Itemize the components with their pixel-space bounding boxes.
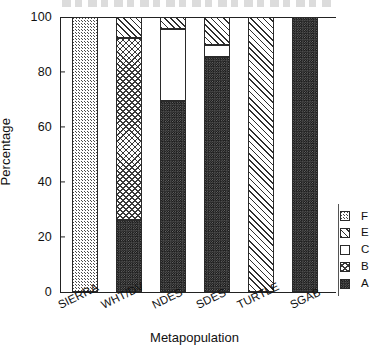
clipped-caption-artifact [62,0,332,7]
segment-ndes-E [160,17,186,29]
y-tick-label-80: 80 [38,65,60,79]
legend-label-A: A [361,278,369,290]
legend-swatch-E-icon [340,228,350,238]
bar-sierra[interactable] [72,17,98,292]
y-tick-label-40: 40 [38,175,60,189]
legend-swatch-F-icon [340,211,350,221]
segment-turtle-E [248,17,274,292]
y-tick-label-0: 0 [45,285,60,299]
y-tick-mark-60 [60,126,65,127]
bar-ndes[interactable] [160,17,186,292]
stacked-bar-chart: Percentage 0 20 40 60 80 100 [0,0,389,351]
legend-swatch-B-icon [340,262,350,272]
x-axis-label: Metapopulation [0,330,389,345]
legend-item-C[interactable]: C [340,242,388,259]
y-tick-mark-20 [60,236,65,237]
y-tick-label-60: 60 [38,120,60,134]
segment-whtdv-B [116,38,142,220]
segment-whtdv-E [116,17,142,38]
y-tick-label-100: 100 [31,10,60,24]
segment-sierra-F [72,17,98,292]
segment-ndes-C [160,29,186,101]
bar-sdes[interactable] [204,17,230,292]
legend-label-F: F [361,211,368,223]
legend-item-E[interactable]: E [340,225,388,242]
legend-label-B: B [361,261,369,273]
legend-divider [338,204,339,296]
segment-ndes-A [160,101,186,292]
legend-label-E: E [361,227,369,239]
segment-sdes-A [204,57,230,292]
legend-swatch-A-icon [340,279,350,289]
legend: F E C B A [340,208,388,292]
segment-sdes-C [204,45,230,57]
legend-item-A[interactable]: A [340,275,388,292]
segment-sdes-E [204,17,230,45]
segment-sgab-A [292,17,318,292]
legend-item-B[interactable]: B [340,258,388,275]
y-axis-label: Percentage [0,118,13,186]
legend-label-C: C [361,244,369,256]
bar-turtle[interactable] [248,17,274,292]
legend-item-F[interactable]: F [340,208,388,225]
legend-swatch-C-icon [340,245,350,255]
bar-sgab[interactable] [292,17,318,292]
y-tick-label-20: 20 [38,230,60,244]
plot-area: 0 20 40 60 80 100 [60,17,336,292]
y-tick-mark-80 [60,71,65,72]
y-tick-mark-40 [60,181,65,182]
bar-wht-dv[interactable] [116,17,142,292]
